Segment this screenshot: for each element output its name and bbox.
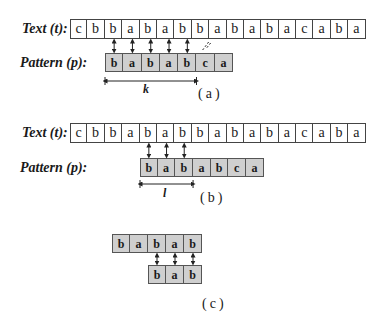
text-row-a: cbbababbababacaba	[70, 19, 366, 39]
pattern-cell: b	[211, 158, 229, 177]
pattern-cell: a	[166, 234, 184, 253]
text-cell: a	[313, 123, 330, 143]
pattern-row-c-bottom: bab	[148, 265, 202, 284]
pattern-cell: b	[175, 158, 193, 177]
pattern-cell: c	[228, 158, 246, 177]
pattern-cell: a	[130, 234, 148, 253]
caption-a: (a)	[198, 86, 223, 102]
text-cell: b	[192, 19, 209, 39]
pattern-row-b: bababca	[140, 158, 264, 177]
mismatch-mark	[207, 43, 211, 48]
text-cell: b	[261, 19, 278, 39]
pattern-cell: b	[105, 53, 123, 72]
text-cell: a	[157, 19, 174, 39]
text-label-b: Text (t):	[22, 125, 68, 141]
text-cell: a	[209, 123, 226, 143]
text-cell: b	[227, 19, 244, 39]
span-label-l: l	[163, 186, 166, 201]
text-cell: a	[157, 123, 174, 143]
text-cell: b	[105, 19, 122, 39]
text-cell: a	[348, 19, 365, 39]
text-cell: a	[244, 19, 261, 39]
text-cell: b	[87, 123, 104, 143]
pattern-cell: b	[112, 234, 130, 253]
pattern-cell: a	[158, 158, 176, 177]
pattern-cell: a	[246, 158, 264, 177]
text-cell: a	[313, 19, 330, 39]
text-cell: b	[174, 123, 191, 143]
text-cell: a	[122, 19, 139, 39]
text-cell: b	[227, 123, 244, 143]
pattern-cell: b	[142, 53, 160, 72]
pattern-cell: b	[178, 53, 196, 72]
text-cell: b	[140, 123, 157, 143]
text-cell: a	[244, 123, 261, 143]
text-cell: a	[279, 123, 296, 143]
text-row-b: cbbababbababacaba	[70, 123, 366, 143]
pattern-cell: b	[148, 265, 166, 284]
pattern-cell: a	[215, 53, 233, 72]
text-cell: b	[105, 123, 122, 143]
caption-c: (c)	[202, 296, 227, 312]
pattern-cell: b	[184, 234, 202, 253]
pattern-row-c-top: babab	[112, 234, 202, 253]
text-cell: c	[70, 123, 87, 143]
text-label-a: Text (t):	[22, 21, 68, 37]
text-cell: c	[296, 123, 313, 143]
pattern-row-a: bababca	[105, 53, 233, 72]
text-cell: b	[174, 19, 191, 39]
text-cell: b	[261, 123, 278, 143]
caption-b: (b)	[200, 190, 225, 206]
pattern-cell: b	[184, 265, 202, 284]
text-cell: c	[70, 19, 87, 39]
text-cell: a	[279, 19, 296, 39]
pattern-cell: a	[160, 53, 178, 72]
pattern-cell: b	[140, 158, 158, 177]
text-cell: b	[331, 19, 348, 39]
text-cell: b	[331, 123, 348, 143]
text-cell: a	[209, 19, 226, 39]
pattern-cell: c	[196, 53, 214, 72]
pattern-cell: b	[148, 234, 166, 253]
pattern-cell: a	[193, 158, 211, 177]
pattern-cell: a	[166, 265, 184, 284]
span-label-k: k	[143, 82, 149, 97]
text-cell: c	[296, 19, 313, 39]
text-cell: a	[122, 123, 139, 143]
pattern-label-b: Pattern (p):	[20, 160, 87, 176]
text-cell: b	[192, 123, 209, 143]
text-cell: b	[87, 19, 104, 39]
text-cell: b	[140, 19, 157, 39]
mismatch-mark	[203, 42, 209, 50]
text-cell: a	[348, 123, 365, 143]
pattern-label-a: Pattern (p):	[20, 55, 87, 71]
pattern-cell: a	[123, 53, 141, 72]
